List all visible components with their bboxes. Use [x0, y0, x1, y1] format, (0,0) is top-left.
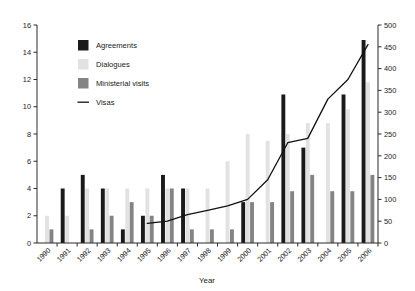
- x-axis-tick-label: 2002: [275, 246, 293, 264]
- x-axis-tick-label: 1999: [215, 246, 233, 264]
- y-axis-left-tick-label: 14: [23, 48, 31, 57]
- x-axis-title: Year: [199, 276, 215, 285]
- bar: [161, 175, 165, 243]
- y-axis-right-tick-label: 200: [384, 152, 396, 161]
- legend-label: Visas: [96, 98, 115, 107]
- bar: [150, 216, 154, 243]
- bar: [45, 216, 49, 243]
- y-axis-right-tick-label: 0: [384, 239, 388, 248]
- grouped-bar-line-chart: 0246810121416050100150200250300350400450…: [0, 0, 415, 291]
- bar: [246, 134, 250, 243]
- visas-line: [147, 45, 368, 224]
- bar: [226, 161, 230, 243]
- visas-line-layer: [147, 45, 368, 224]
- bar: [346, 109, 350, 243]
- x-axis-tick-label: 1990: [35, 246, 53, 264]
- bar: [281, 94, 285, 243]
- y-axis-right-tick-label: 100: [384, 195, 396, 204]
- legend-swatch: [78, 59, 89, 70]
- y-axis-left-tick-label: 8: [27, 130, 31, 139]
- bar: [81, 175, 85, 243]
- bar: [301, 148, 305, 243]
- bar: [170, 189, 174, 244]
- bar: [130, 202, 134, 243]
- bar: [65, 216, 69, 243]
- bar: [121, 229, 125, 243]
- y-axis-left-tick-label: 10: [23, 102, 31, 111]
- x-axis-tick-label: 1995: [135, 246, 153, 264]
- labels-layer: 0246810121416050100150200250300350400450…: [23, 21, 397, 264]
- bar: [230, 229, 234, 243]
- y-axis-right-tick-label: 250: [384, 130, 396, 139]
- bar: [125, 189, 129, 244]
- y-axis-right-tick-label: 150: [384, 173, 396, 182]
- bar: [165, 189, 169, 244]
- bar: [330, 191, 334, 243]
- chart-container: 0246810121416050100150200250300350400450…: [0, 0, 415, 291]
- bar: [49, 229, 53, 243]
- y-axis-right-tick-label: 300: [384, 108, 396, 117]
- bar: [61, 189, 65, 244]
- bar: [326, 123, 330, 243]
- bar: [85, 189, 89, 244]
- bars-layer: [45, 40, 374, 243]
- x-axis-tick-label: 1994: [115, 246, 133, 264]
- x-axis-tick-label: 1991: [55, 246, 73, 264]
- x-axis-tick-label: 1993: [95, 246, 113, 264]
- bar: [141, 216, 145, 243]
- bar: [101, 189, 105, 244]
- y-axis-right-tick-label: 350: [384, 86, 396, 95]
- x-axis-tick-label: 1997: [175, 246, 193, 264]
- bar: [342, 94, 346, 243]
- y-axis-right-tick-label: 50: [384, 217, 392, 226]
- bar: [250, 202, 254, 243]
- legend-swatch: [78, 40, 89, 51]
- x-axis-tick-label: 2006: [356, 246, 374, 264]
- chart-legend: AgreementsDialoguesMinisterial visitsVis…: [78, 40, 150, 107]
- x-axis-tick-label: 2003: [296, 246, 314, 264]
- y-axis-left-tick-label: 2: [27, 211, 31, 220]
- legend-label: Ministerial visits: [96, 79, 149, 88]
- y-axis-left-tick-label: 16: [23, 21, 31, 30]
- bar: [270, 202, 274, 243]
- x-axis-tick-label: 2004: [316, 246, 334, 264]
- bar: [266, 141, 270, 243]
- y-axis-left-tick-label: 12: [23, 75, 31, 84]
- y-axis-right-tick-label: 500: [384, 21, 396, 30]
- bar: [190, 229, 194, 243]
- bar: [90, 229, 94, 243]
- bar: [206, 189, 210, 244]
- y-axis-left-tick-label: 0: [27, 239, 31, 248]
- y-axis-left-tick-label: 6: [27, 157, 31, 166]
- x-axis-tick-label: 1996: [155, 246, 173, 264]
- bar: [310, 175, 314, 243]
- x-axis-tick-label: 1992: [75, 246, 93, 264]
- bar: [145, 189, 149, 244]
- legend-swatch: [78, 78, 89, 89]
- bar: [210, 229, 214, 243]
- x-axis-tick-label: 1998: [195, 246, 213, 264]
- bar: [241, 202, 245, 243]
- bar: [362, 40, 366, 243]
- x-axis-tick-label: 2005: [336, 246, 354, 264]
- bar: [286, 134, 290, 243]
- bar: [370, 175, 374, 243]
- legend-label: Agreements: [96, 41, 137, 50]
- bar: [306, 123, 310, 243]
- x-axis-tick-label: 2001: [255, 246, 273, 264]
- bar: [105, 189, 109, 244]
- bar: [366, 82, 370, 243]
- y-axis-left-tick-label: 4: [27, 184, 31, 193]
- legend-label: Dialogues: [96, 60, 130, 69]
- bar: [290, 191, 294, 243]
- x-axis-tick-label: 2000: [235, 246, 253, 264]
- y-axis-right-tick-label: 450: [384, 43, 396, 52]
- y-axis-right-tick-label: 400: [384, 64, 396, 73]
- bar: [110, 216, 114, 243]
- bar: [350, 191, 354, 243]
